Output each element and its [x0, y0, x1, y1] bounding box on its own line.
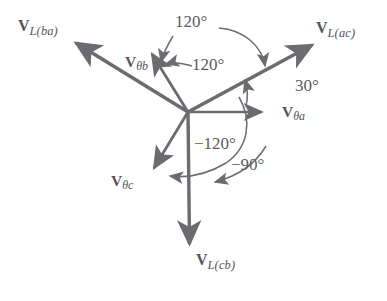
phasor-diagram-figure: VL(ba) VL(ac) VL(cb) Vθa Vθb Vθc 120° 12…	[0, 0, 387, 301]
label-v-theta-b-subscript: θb	[136, 59, 148, 73]
label-vl-ac-symbol: V	[316, 19, 328, 36]
label-vl-cb: VL(cb)	[196, 252, 235, 271]
angle-label-120-upper: 120°	[175, 13, 207, 30]
label-vl-ac: VL(ac)	[316, 20, 355, 39]
label-v-theta-b: Vθb	[125, 54, 148, 72]
label-vl-ba: VL(ba)	[18, 18, 58, 37]
label-v-theta-a-symbol: V	[282, 103, 293, 120]
label-v-theta-a: Vθa	[282, 104, 305, 122]
arc-120-inner	[166, 63, 192, 66]
angle-label-30: 30°	[295, 77, 319, 94]
angle-label-minus-120: −120°	[194, 135, 236, 152]
arc-120-upper	[219, 28, 265, 66]
vector-vl-cb	[188, 112, 190, 244]
label-vl-cb-symbol: V	[196, 251, 208, 268]
label-v-theta-c: Vθc	[111, 173, 133, 191]
label-vl-cb-subscript: L(cb)	[208, 258, 236, 272]
arc-30	[245, 80, 247, 106]
angle-label-120-inner: 120°	[192, 56, 224, 73]
vector-v-theta-c	[154, 112, 188, 168]
label-v-theta-c-symbol: V	[111, 172, 122, 189]
angle-label-minus-90: −90°	[231, 156, 264, 173]
label-vl-ba-symbol: V	[18, 17, 30, 34]
arc-120-upper-left	[161, 36, 173, 62]
label-vl-ba-subscript: L(ba)	[30, 24, 58, 38]
label-v-theta-c-subscript: θc	[122, 178, 133, 192]
label-v-theta-b-symbol: V	[125, 53, 136, 70]
label-vl-ac-subscript: L(ac)	[328, 26, 356, 40]
label-v-theta-a-subscript: θa	[293, 109, 305, 123]
